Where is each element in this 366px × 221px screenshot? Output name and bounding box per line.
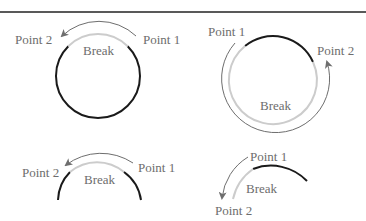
break-label: Break [246,181,278,196]
direction-arrow [222,43,330,133]
intact-strand-right [124,172,141,200]
point2-label: Point 2 [317,43,354,58]
point1-label: Point 1 [208,24,245,39]
point1-label: Point 1 [143,32,180,47]
direction-arrow [66,153,133,165]
intact-strand [245,36,313,62]
break-label: Break [84,172,116,187]
panel-bottom-right: Point 1 Break Point 2 [215,149,307,218]
break-label: Break [260,98,292,113]
point1-label: Point 1 [138,160,175,175]
break-diagram: Point 2 Point 1 Break Point 1 Point 2 Br… [0,0,366,221]
break-label: Break [83,43,115,58]
intact-strand-left [58,172,70,200]
break-strand [70,162,124,172]
panel-top-right: Point 1 Point 2 Break [208,24,354,133]
point2-label: Point 2 [215,203,252,218]
point2-label: Point 2 [22,165,59,180]
point2-label: Point 2 [15,32,52,47]
panel-top-left: Point 2 Point 1 Break [15,21,180,118]
intact-strand [253,166,307,181]
panel-bottom-left: Point 2 Point 1 Break [22,153,175,200]
point1-label: Point 1 [250,149,287,164]
